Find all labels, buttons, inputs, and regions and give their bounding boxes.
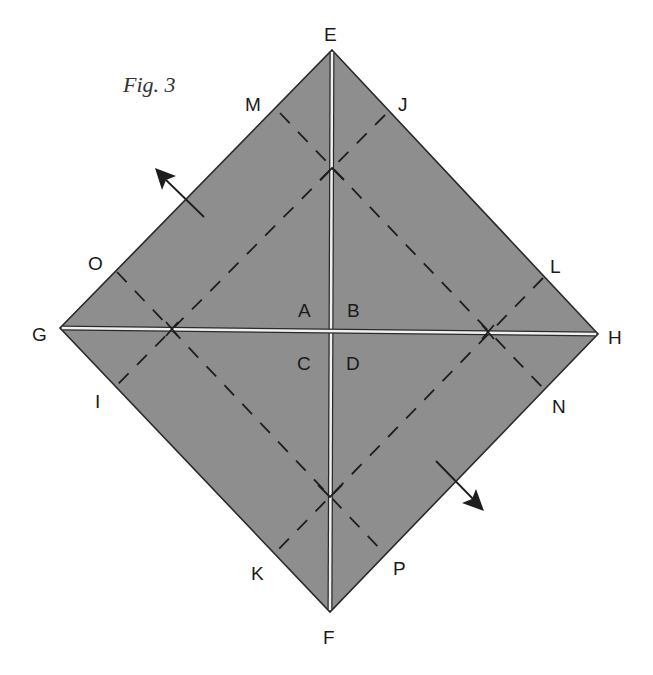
label-N: N — [552, 396, 566, 417]
label-F: F — [323, 627, 335, 648]
label-K: K — [251, 563, 264, 584]
label-C: C — [297, 353, 311, 374]
label-H: H — [608, 327, 622, 348]
label-P: P — [393, 558, 406, 579]
label-A: A — [298, 300, 311, 321]
label-D: D — [346, 353, 360, 374]
label-O: O — [88, 253, 103, 274]
label-B: B — [347, 300, 360, 321]
label-E: E — [324, 24, 337, 45]
origami-diagram: Fig. 3 E F G H A B C D M J O L I N K P — [0, 0, 653, 675]
label-L: L — [550, 256, 561, 277]
label-J: J — [398, 94, 408, 115]
label-G: G — [32, 324, 47, 345]
label-I: I — [95, 391, 100, 412]
label-M: M — [245, 94, 261, 115]
figure-title: Fig. 3 — [122, 72, 176, 97]
